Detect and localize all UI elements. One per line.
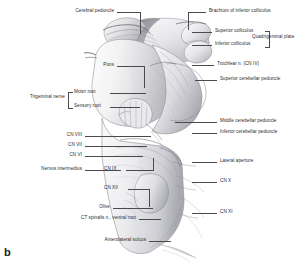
label-cn-xii: CN XII — [104, 186, 126, 191]
label-cn-vii: CN VII — [56, 143, 82, 148]
label-inferior-colliculus: Inferior colliculus — [215, 42, 265, 47]
label-cn-viii: CN VIII — [56, 133, 82, 138]
leader-trochlear-nerve — [192, 65, 214, 66]
label-cn-ix: CN IX — [104, 167, 124, 172]
label-olive: Olive — [76, 205, 110, 210]
panel-letter: b — [4, 246, 11, 258]
label-nervus-intermedius: Nervus intermedius — [22, 167, 82, 172]
leader-superior-colliculus — [192, 32, 212, 33]
leader-middle-cerebellar-peduncle — [175, 122, 217, 123]
label-inferior-cerebellar-peduncle: Inferior cerebellar peduncle — [220, 130, 302, 135]
leader-cn-viii — [85, 136, 151, 137]
leader-inferior-cerebellar-peduncle — [192, 133, 217, 134]
leader-superior-cerebellar-peduncle — [195, 80, 217, 81]
leader-anterolateral-sulcus — [149, 241, 171, 242]
leader-brachium — [188, 12, 206, 13]
leader-ct-spinalis — [139, 219, 161, 220]
brainstem-body — [84, 18, 214, 262]
label-quadrigeminal-plate: Quadrigeminal plate — [252, 35, 305, 40]
leader-motor-root — [110, 93, 146, 94]
leader-cn-ix — [126, 170, 154, 171]
leader-cn-xii — [128, 189, 150, 190]
label-brachium-of-inferior-colliculus: Brachium of inferior colliculus — [209, 9, 303, 14]
label-superior-cerebellar-peduncle: Superior cerebellar peduncle — [220, 77, 302, 82]
leader-inferior-colliculus — [192, 45, 212, 46]
label-lateral-aperture: Lateral aperture — [220, 159, 270, 164]
label-ct-spinalis-ventral-root: CT spinalis n., ventral root — [50, 216, 136, 221]
leader-cerebral-peduncle-drop — [140, 12, 141, 34]
label-middle-cerebellar-peduncle: Middle cerebellar peduncle — [220, 119, 302, 124]
bracket-trigeminal-roots — [68, 92, 73, 109]
label-trigeminal-nerve: Trigeminal nerve — [6, 95, 65, 100]
leader-cn-vii — [85, 146, 147, 147]
label-cerebral-peduncle: Cerebral peduncle — [52, 9, 114, 14]
label-cn-xi: CN XI — [220, 210, 242, 215]
label-cn-x: CN X — [220, 179, 242, 184]
leader-cn-xi — [192, 213, 217, 214]
leader-cerebral-peduncle — [117, 12, 141, 13]
leader-pons-drop — [144, 66, 145, 88]
leader-cn-vi — [85, 156, 143, 157]
anatomy-figure-panel: Cerebral peduncle Pons Trigeminal nerve … — [0, 0, 305, 267]
leader-brachium-drop — [188, 12, 189, 30]
leader-cn-ix-drop — [153, 158, 154, 171]
label-cn-vi: CN VI — [56, 153, 82, 158]
label-pons: Pons — [56, 63, 114, 68]
leader-pons — [117, 66, 145, 67]
label-anterolateral-sulcus: Anterolateral sulcus — [84, 238, 146, 243]
label-motor-root: Motor root — [74, 90, 108, 95]
label-sensory-root: Sensory root — [74, 104, 110, 109]
leader-sensory-root — [110, 107, 140, 108]
label-trochlear-nerve: Trochlear n. (CN IV) — [217, 62, 279, 67]
leader-cn-x — [192, 182, 217, 183]
leader-olive — [113, 208, 153, 209]
leader-cn-xii-drop — [149, 189, 150, 207]
leader-lateral-aperture — [192, 162, 217, 163]
